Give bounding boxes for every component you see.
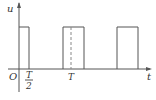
pulse-1 xyxy=(19,27,29,69)
x-axis-label: t xyxy=(147,71,152,82)
tick-half-numerator: T xyxy=(26,70,33,80)
tick-T-label: T xyxy=(68,72,75,82)
tick-half-denominator: 2 xyxy=(25,81,32,91)
origin-label: O xyxy=(9,71,17,82)
pulse-2 xyxy=(63,27,84,69)
waveform-diagram: u t O T 2 T xyxy=(0,0,156,100)
pulse-3 xyxy=(117,27,138,69)
y-axis-label: u xyxy=(7,3,13,14)
y-axis-arrow-icon xyxy=(17,2,21,8)
